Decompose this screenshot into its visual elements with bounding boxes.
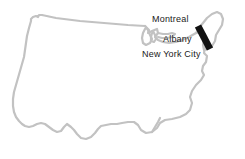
us-outline-map-figure: Montreal Albany New York City	[0, 0, 245, 159]
northeast-corridor-bar-marker	[0, 0, 245, 159]
corridor-bar-line	[198, 26, 210, 49]
